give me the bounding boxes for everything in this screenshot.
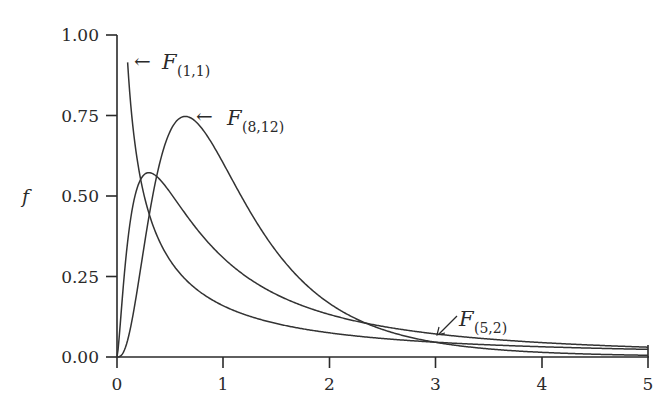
y-tick-label: 0.25 — [61, 267, 99, 287]
annotation-f-8-12: ← F (8,12) — [196, 104, 284, 135]
y-tick-label: 0.50 — [61, 186, 99, 206]
y-tick-label: 0.75 — [61, 106, 99, 126]
x-tick-label: 1 — [218, 374, 229, 394]
x-tick-label: 0 — [112, 374, 123, 394]
arrow-left-icon: ← — [134, 49, 151, 73]
curve-f-8-12 — [117, 116, 648, 357]
x-axis: 0 1 2 3 4 5 — [112, 345, 654, 394]
annotation-f-1-1: ← F (1,1) — [134, 49, 210, 79]
arrow-left-icon: ← — [196, 104, 213, 128]
annotation-f-5-2: F (5,2) — [437, 307, 507, 336]
arrow-diagonal-icon — [439, 316, 457, 334]
series-label-main: F — [161, 50, 178, 74]
y-tick-label: 1.00 — [61, 25, 99, 45]
x-tick-label: 4 — [537, 374, 548, 394]
x-tick-label: 5 — [643, 374, 654, 394]
y-axis-label: f — [20, 185, 32, 207]
series-label-sub: (1,1) — [177, 63, 210, 79]
x-tick-label: 2 — [324, 374, 335, 394]
x-tick-label: 3 — [430, 374, 441, 394]
f-distribution-chart: 1.00 0.75 0.50 0.25 0.00 f 0 1 2 3 4 5 ←… — [0, 0, 668, 410]
series-label-sub: (8,12) — [242, 119, 284, 135]
series-label-sub: (5,2) — [474, 320, 507, 336]
y-tick-label: 0.00 — [61, 347, 99, 367]
series-label-main: F — [458, 307, 475, 331]
series-label-main: F — [226, 106, 243, 130]
y-axis: 1.00 0.75 0.50 0.25 0.00 f — [20, 25, 117, 367]
